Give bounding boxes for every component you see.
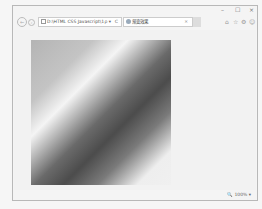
tab-active[interactable]: 渐变效果 ×: [123, 17, 193, 27]
search-dropdown-icon[interactable]: ρ ▾: [104, 18, 111, 26]
forward-arrow-icon: ›: [31, 20, 33, 25]
maximize-button[interactable]: ☐: [235, 6, 240, 14]
gear-icon[interactable]: ⚙: [241, 19, 247, 25]
back-arrow-icon: ←: [20, 19, 24, 25]
address-bar[interactable]: D:\HTML CSS Javascript\1 ρ ▾ C: [38, 17, 122, 27]
minimize-button[interactable]: –: [221, 6, 224, 14]
forward-button[interactable]: ›: [28, 19, 35, 26]
title-bar: – ☐ ×: [13, 6, 257, 14]
gradient-box: [31, 40, 171, 185]
navigation-bar: ← › D:\HTML CSS Javascript\1 ρ ▾ C 渐变效果 …: [13, 14, 257, 30]
favorites-icon[interactable]: ☆: [233, 19, 239, 25]
refresh-icon[interactable]: C: [115, 18, 118, 26]
tab-favicon-icon: [126, 19, 131, 24]
close-window-button[interactable]: ×: [249, 6, 254, 14]
home-icon[interactable]: ⌂: [225, 19, 231, 25]
tab-title: 渐变效果: [132, 19, 148, 24]
back-button[interactable]: ←: [17, 17, 27, 27]
smiley-feedback-icon[interactable]: ☺: [249, 19, 255, 25]
browser-window: – ☐ × ← › D:\HTML CSS Javascript\1 ρ ▾ C…: [12, 5, 258, 201]
status-bar: 🔍 100% ▾: [13, 190, 257, 200]
page-icon: [41, 19, 46, 24]
zoom-level-button[interactable]: 🔍 100% ▾: [227, 191, 251, 199]
tab-close-icon[interactable]: ×: [184, 18, 188, 26]
address-text: D:\HTML CSS Javascript\1: [47, 19, 104, 24]
page-content: [14, 30, 256, 190]
new-tab-button[interactable]: [193, 17, 201, 27]
